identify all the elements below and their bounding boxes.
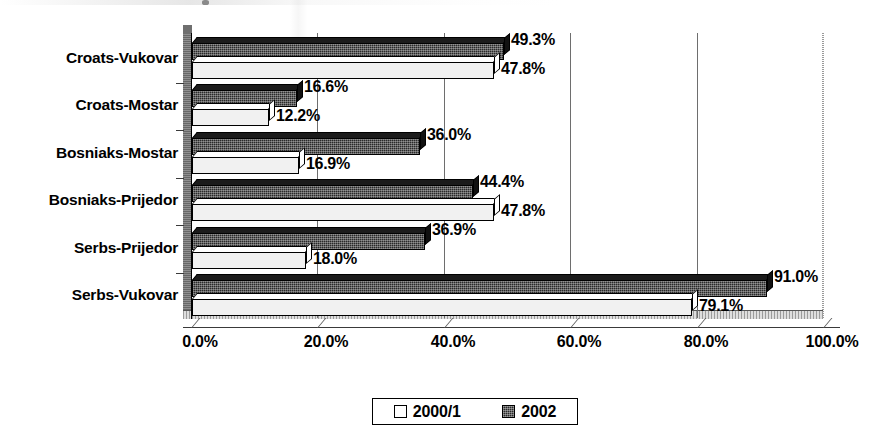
value-label-2000-1-serbs-prijedor: 18.0% (313, 251, 357, 267)
x-axis-line (183, 327, 840, 328)
bar-body (192, 252, 306, 269)
category-label-serbs-prijedor: Serbs-Prijedor (0, 240, 178, 256)
bar-2000-1-croats-vukovar (192, 62, 494, 79)
y-tick-5 (176, 273, 184, 274)
legend-item-2002[interactable]: 2002 (502, 403, 556, 421)
value-label-2002-serbs-prijedor: 36.9% (432, 222, 476, 238)
bar-2000-1-serbs-prijedor (192, 252, 306, 269)
y-tick-3 (176, 178, 184, 179)
gridline-100-0 (823, 33, 825, 318)
x-tick-label-0: 0.0% (140, 333, 260, 351)
value-label-2000-1-bosniaks-mostar: 16.9% (306, 156, 350, 172)
value-label-2000-1-serbs-vukovar: 79.1% (699, 298, 743, 314)
value-label-2002-bosniaks-prijedor: 44.4% (480, 174, 524, 190)
legend-label-2002: 2002 (521, 403, 556, 421)
light-swatch-icon (394, 405, 407, 418)
bar-body (192, 204, 494, 221)
legend: 2000/1 2002 (372, 398, 578, 425)
bar-chart: 0.0%20.0%40.0%60.0%80.0%100.0% Croats-Vu… (0, 0, 870, 442)
value-label-2000-1-croats-mostar: 12.2% (276, 108, 320, 124)
y-tick-4 (176, 225, 184, 226)
x-tick-label-5: 100.0% (772, 333, 870, 351)
category-label-serbs-vukovar: Serbs-Vukovar (0, 287, 178, 303)
x-tick-label-2: 40.0% (393, 333, 513, 351)
value-label-2002-bosniaks-mostar: 36.0% (427, 127, 471, 143)
bar-body (192, 299, 692, 316)
y-tick-1 (176, 83, 184, 84)
value-label-2002-croats-mostar: 16.6% (304, 79, 348, 95)
legend-label-2000-1: 2000/1 (413, 403, 461, 421)
bar-2000-1-bosniaks-prijedor (192, 204, 494, 221)
legend-item-2000-1[interactable]: 2000/1 (394, 403, 461, 421)
category-label-croats-vukovar: Croats-Vukovar (0, 50, 178, 66)
x-tick-label-3: 60.0% (519, 333, 639, 351)
bar-2000-1-bosniaks-mostar (192, 157, 299, 174)
scan-smudge (202, 0, 209, 5)
bar-2000-1-serbs-vukovar (192, 299, 692, 316)
category-label-bosniaks-prijedor: Bosniaks-Prijedor (0, 192, 178, 208)
category-label-croats-mostar: Croats-Mostar (0, 97, 178, 113)
value-label-2002-croats-vukovar: 49.3% (511, 32, 555, 48)
category-label-bosniaks-mostar: Bosniaks-Mostar (0, 145, 178, 161)
scan-artifact (0, 0, 870, 5)
bar-2000-1-croats-mostar (192, 109, 269, 126)
bar-body (192, 109, 269, 126)
x-tick-label-4: 80.0% (646, 333, 766, 351)
value-label-2000-1-croats-vukovar: 47.8% (501, 61, 545, 77)
bar-body (192, 62, 494, 79)
bar-body (192, 157, 299, 174)
y-tick-2 (176, 130, 184, 131)
value-label-2000-1-bosniaks-prijedor: 47.8% (501, 203, 545, 219)
value-label-2002-serbs-vukovar: 91.0% (774, 269, 818, 285)
x-tick-label-1: 20.0% (266, 333, 386, 351)
dark-swatch-icon (502, 405, 515, 418)
